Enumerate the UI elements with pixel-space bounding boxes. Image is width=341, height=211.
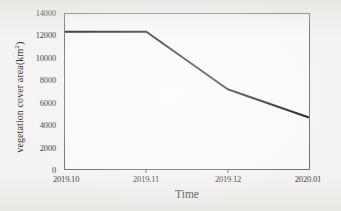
- x-axis-tick-label: 2020.01: [295, 174, 321, 184]
- plot-area: [64, 13, 310, 170]
- vegetation-cover-area-line: [65, 32, 309, 118]
- y-axis-tick-label: 6000: [40, 98, 56, 108]
- chart-figure: vegetation cover area(km2) 0200040006000…: [0, 0, 341, 211]
- x-axis-tick-mark: [227, 170, 228, 173]
- y-axis-tick-label: 4000: [40, 120, 56, 130]
- y-axis-tick-label: 14000: [36, 8, 56, 18]
- x-axis-tick-label: 2019.11: [133, 174, 159, 184]
- x-axis-title: Time: [64, 188, 310, 200]
- x-axis-tick-mark: [145, 170, 146, 173]
- x-axis-tick-labels: 2019.102019.112019.122020.01: [64, 174, 310, 188]
- data-series-line: [65, 14, 309, 169]
- y-axis-tick-label: 12000: [36, 30, 56, 40]
- y-axis-tick-label: 2000: [40, 143, 56, 153]
- y-axis-tick-label: 10000: [36, 53, 56, 63]
- y-axis-tick-labels: 02000400060008000100001200014000: [0, 13, 60, 170]
- x-axis-tick-label: 2019.10: [53, 174, 79, 184]
- y-axis-tick-label: 8000: [40, 75, 56, 85]
- x-axis-tick-label: 2019.12: [215, 174, 241, 184]
